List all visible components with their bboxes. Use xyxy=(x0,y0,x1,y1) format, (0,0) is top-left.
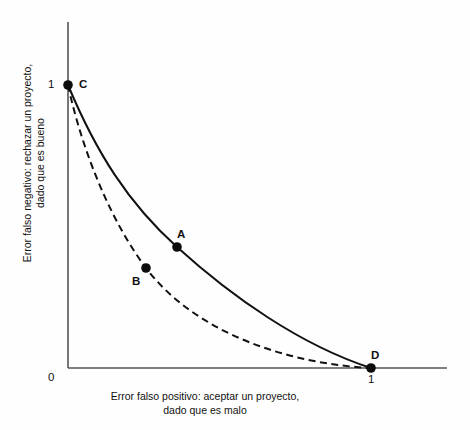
series-curva-inferior xyxy=(68,85,371,368)
data-point-c[interactable] xyxy=(63,80,73,90)
y-tick-label-0: 0 xyxy=(48,372,54,384)
data-point-a[interactable] xyxy=(172,242,182,252)
point-label-b: B xyxy=(132,276,140,288)
point-label-d: D xyxy=(371,350,379,362)
chart-figure: 1 0 1 C A B D Error falso negativo: rech… xyxy=(0,0,470,430)
x-axis-title: Error falso positivo: aceptar un proyect… xyxy=(70,390,340,417)
point-label-a: A xyxy=(177,229,185,241)
y-axis-title: Error falso negativo: rechazar un proyec… xyxy=(21,63,47,263)
y-tick-label-1: 1 xyxy=(48,79,54,91)
y-axis-title-line1: Error falso negativo: rechazar un proyec… xyxy=(21,63,34,263)
x-axis-title-line1: Error falso positivo: aceptar un proyect… xyxy=(70,390,340,404)
x-axis-title-line2: dado que es malo xyxy=(70,404,340,418)
data-point-b[interactable] xyxy=(141,263,151,273)
x-tick-label-1: 1 xyxy=(368,374,374,386)
data-point-d[interactable] xyxy=(366,363,376,373)
plot-area xyxy=(0,0,470,430)
point-label-c: C xyxy=(79,79,87,91)
series-curva-superior xyxy=(68,85,371,368)
y-axis-title-line2: dado que es bueno xyxy=(34,63,47,263)
